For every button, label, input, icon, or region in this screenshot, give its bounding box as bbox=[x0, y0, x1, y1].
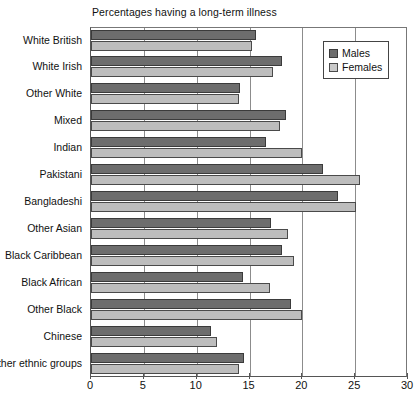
bar-females-black-african bbox=[91, 283, 270, 293]
category-label-black-caribbean: Black Caribbean bbox=[5, 249, 82, 261]
bar-females-pakistani bbox=[91, 175, 360, 185]
tick-label-10: 10 bbox=[190, 379, 202, 391]
legend-swatch-females-icon bbox=[329, 63, 338, 72]
tick-label-20: 20 bbox=[295, 379, 307, 391]
bar-rows bbox=[91, 28, 406, 376]
legend-item-females: Females bbox=[329, 60, 382, 74]
category-label-other-white: Other White bbox=[26, 87, 82, 99]
bar-females-mixed bbox=[91, 121, 280, 131]
chart-title: Percentages having a long-term illness bbox=[92, 6, 277, 18]
bar-row bbox=[91, 326, 406, 348]
legend-item-males: Males bbox=[329, 46, 382, 60]
tick-label-30: 30 bbox=[401, 379, 413, 391]
category-label-indian: Indian bbox=[53, 141, 82, 153]
bar-chart: Percentages having a long-term illness W… bbox=[0, 0, 415, 412]
bar-males-other-black bbox=[91, 299, 291, 309]
bar-females-other-black bbox=[91, 310, 302, 320]
legend-label-females: Females bbox=[342, 60, 382, 74]
category-label-other-ethnic-groups: Other ethnic groups bbox=[0, 357, 82, 369]
bar-row bbox=[91, 137, 406, 159]
bar-females-white-irish bbox=[91, 67, 273, 77]
bar-females-white-british bbox=[91, 41, 252, 51]
bar-males-chinese bbox=[91, 326, 211, 336]
category-label-other-asian: Other Asian bbox=[27, 222, 82, 234]
tick-label-5: 5 bbox=[140, 379, 146, 391]
tick-label-0: 0 bbox=[87, 379, 93, 391]
bar-row bbox=[91, 245, 406, 267]
category-axis-labels: White BritishWhite IrishOther WhiteMixed… bbox=[0, 27, 86, 377]
bar-females-chinese bbox=[91, 337, 217, 347]
bar-males-white-british bbox=[91, 30, 256, 40]
bar-females-other-asian bbox=[91, 229, 288, 239]
bar-males-other-asian bbox=[91, 218, 271, 228]
category-label-bangladeshi: Bangladeshi bbox=[24, 195, 82, 207]
bar-males-white-irish bbox=[91, 56, 282, 66]
bar-row bbox=[91, 353, 406, 375]
bar-row bbox=[91, 83, 406, 105]
category-label-chinese: Chinese bbox=[43, 330, 82, 342]
bar-row bbox=[91, 164, 406, 186]
bar-males-black-african bbox=[91, 272, 243, 282]
category-label-pakistani: Pakistani bbox=[39, 168, 82, 180]
bar-females-other-ethnic-groups bbox=[91, 364, 239, 374]
plot-area bbox=[90, 27, 407, 377]
bar-row bbox=[91, 272, 406, 294]
category-label-other-black: Other Black bbox=[27, 303, 82, 315]
tick-label-15: 15 bbox=[242, 379, 254, 391]
bar-females-black-caribbean bbox=[91, 256, 294, 266]
category-label-black-african: Black African bbox=[21, 276, 82, 288]
category-label-white-british: White British bbox=[23, 34, 82, 46]
bar-males-indian bbox=[91, 137, 266, 147]
bar-males-other-white bbox=[91, 83, 240, 93]
bar-males-pakistani bbox=[91, 164, 323, 174]
bar-females-indian bbox=[91, 148, 302, 158]
legend-swatch-males-icon bbox=[329, 49, 338, 58]
legend-label-males: Males bbox=[342, 46, 370, 60]
bar-males-black-caribbean bbox=[91, 245, 282, 255]
bar-males-other-ethnic-groups bbox=[91, 353, 244, 363]
bar-males-mixed bbox=[91, 110, 286, 120]
chart-legend: Males Females bbox=[323, 41, 389, 79]
bar-row bbox=[91, 110, 406, 132]
bar-females-other-white bbox=[91, 94, 239, 104]
tick-label-25: 25 bbox=[348, 379, 360, 391]
bar-males-bangladeshi bbox=[91, 191, 338, 201]
category-label-mixed: Mixed bbox=[54, 114, 82, 126]
bar-row bbox=[91, 218, 406, 240]
bar-row bbox=[91, 299, 406, 321]
bar-row bbox=[91, 191, 406, 213]
value-axis-labels: 051015202530 bbox=[0, 379, 415, 401]
bar-females-bangladeshi bbox=[91, 202, 356, 212]
category-label-white-irish: White Irish bbox=[32, 60, 82, 72]
